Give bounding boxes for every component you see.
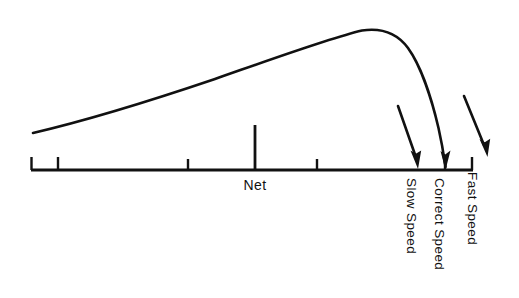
- ball-trajectory-curve: [33, 30, 446, 167]
- correct-speed-label: Correct Speed: [432, 178, 447, 270]
- net-label: Net: [244, 177, 267, 193]
- slow-speed-arrow-shaft: [398, 106, 416, 156]
- figure-root: Net Slow Speed Correct Speed Fast Speed: [0, 0, 519, 298]
- fast-speed-arrowhead: [480, 139, 491, 157]
- fast-speed-label: Fast Speed: [465, 172, 480, 245]
- trajectory-arrowhead: [441, 151, 451, 171]
- slow-speed-label: Slow Speed: [404, 178, 419, 254]
- fast-speed-arrow-shaft: [464, 96, 484, 145]
